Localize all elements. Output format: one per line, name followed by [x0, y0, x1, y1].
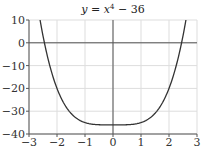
- y-tick-label: −20: [2, 82, 25, 95]
- x-tick-label: 0: [110, 136, 117, 149]
- x-tick-label: −1: [77, 136, 93, 149]
- y-tick-label: −30: [2, 105, 25, 118]
- x-tick-label: −2: [49, 136, 65, 149]
- y-tick-label: −40: [2, 128, 25, 141]
- x-tick-label: 2: [166, 136, 173, 149]
- y-tick-label: 0: [18, 37, 25, 50]
- tick-labels: −3−2−10123−40−30−20−10010: [2, 14, 201, 149]
- chart-title: y = x4 − 36: [80, 3, 144, 16]
- axes: [26, 20, 197, 137]
- y-tick-label: 10: [11, 14, 25, 27]
- y-tick-label: −10: [2, 60, 25, 73]
- x-tick-label: 3: [194, 136, 201, 149]
- x-tick-label: 1: [138, 136, 145, 149]
- chart: −3−2−10123−40−30−20−10010 y = x4 − 36: [0, 0, 203, 153]
